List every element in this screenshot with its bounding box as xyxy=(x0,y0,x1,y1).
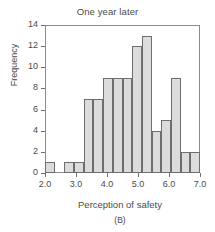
histogram-bar xyxy=(113,78,123,173)
y-tick-label: 8 xyxy=(14,82,38,92)
y-axis-tick: 12 xyxy=(21,46,45,47)
chart-title: One year later xyxy=(0,6,215,17)
x-tick-mark xyxy=(138,173,139,177)
x-tick-label: 6.0 xyxy=(155,179,183,189)
histogram-figure: One year later Frequency 02468101214 2.0… xyxy=(0,0,215,232)
x-tick-mark xyxy=(107,173,108,177)
histogram-bar xyxy=(93,99,103,173)
histogram-bar xyxy=(142,36,152,173)
y-axis-tick: 2 xyxy=(21,152,45,153)
y-axis-tick: 10 xyxy=(21,67,45,68)
y-tick-label: 2 xyxy=(14,146,38,156)
x-tick-label: 5.0 xyxy=(124,179,152,189)
y-tick-label: 12 xyxy=(14,40,38,50)
y-axis-tick: 0 xyxy=(21,173,45,174)
histogram-bar xyxy=(181,152,191,173)
y-axis-tick: 4 xyxy=(21,131,45,132)
x-tick-label: 2.0 xyxy=(31,179,59,189)
histogram-bar xyxy=(74,162,84,173)
y-axis-tick: 6 xyxy=(21,110,45,111)
histogram-bar xyxy=(103,78,113,173)
x-tick-label: 7.0 xyxy=(186,179,214,189)
x-tick-label: 3.0 xyxy=(62,179,90,189)
panel-caption: (B) xyxy=(36,215,204,225)
histogram-bar xyxy=(171,78,181,173)
histogram-bar xyxy=(152,131,162,173)
y-tick-label: 4 xyxy=(14,125,38,135)
x-tick-label: 4.0 xyxy=(93,179,121,189)
y-tick-label: 14 xyxy=(14,19,38,29)
histogram-bar xyxy=(64,162,74,173)
plot-area xyxy=(45,25,200,173)
y-tick-label: 6 xyxy=(14,104,38,114)
x-tick-mark xyxy=(200,173,201,177)
x-axis-label: Perception of safety xyxy=(36,199,204,210)
histogram-bar xyxy=(123,78,133,173)
y-tick-label: 10 xyxy=(14,61,38,71)
y-axis-tick: 8 xyxy=(21,88,45,89)
histogram-bar xyxy=(190,152,200,173)
histogram-bar xyxy=(161,120,171,173)
y-axis-tick: 14 xyxy=(21,25,45,26)
x-tick-mark xyxy=(169,173,170,177)
histogram-bar xyxy=(84,99,94,173)
y-tick-label: 0 xyxy=(14,167,38,177)
histogram-bar xyxy=(45,162,55,173)
x-tick-mark xyxy=(76,173,77,177)
x-axis: 2.03.04.05.06.07.0 xyxy=(45,173,200,199)
histogram-bar xyxy=(132,46,142,173)
x-tick-mark xyxy=(45,173,46,177)
y-axis: 02468101214 xyxy=(21,25,45,173)
